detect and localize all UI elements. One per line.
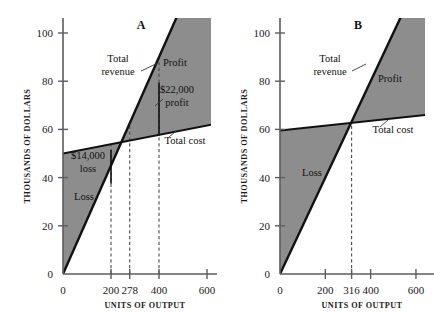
y-tick-label-100: 100 (254, 27, 271, 39)
total-revenue-leader (352, 64, 366, 71)
x-tick-label-200: 200 (317, 284, 334, 296)
breakeven-figure: 0204060801000200278400600UNITS OF OUTPUT… (0, 0, 434, 312)
breakeven-charts-svg: 0204060801000200278400600UNITS OF OUTPUT… (0, 0, 434, 312)
y-axis-title: THOUSANDS OF DOLLARS (23, 89, 32, 204)
total-revenue-label-line1: Total (319, 53, 341, 64)
total-revenue-label-line2: revenue (313, 66, 347, 77)
y-tick-label-60: 60 (259, 123, 271, 135)
x-tick-label-400: 400 (362, 284, 379, 296)
y-tick-label-0: 0 (265, 268, 271, 280)
y-tick-label-20: 20 (42, 220, 54, 232)
y-tick-label-20: 20 (259, 220, 271, 232)
y-tick-label-0: 0 (48, 268, 54, 280)
panel-letter: A (137, 18, 146, 32)
x-axis-title: UNITS OF OUTPUT (321, 301, 402, 310)
y-tick-label-80: 80 (42, 75, 54, 87)
x-axis-title: UNITS OF OUTPUT (104, 301, 185, 310)
x-tick-label-316: 316 (343, 284, 360, 296)
x-tick-label-0: 0 (60, 284, 66, 296)
y-tick-label-60: 60 (42, 123, 54, 135)
profit-region (352, 0, 425, 123)
y-tick-label-80: 80 (259, 75, 271, 87)
y-tick-label-100: 100 (37, 27, 54, 39)
total-cost-label: Total cost (165, 135, 206, 146)
x-tick-label-400: 400 (151, 284, 168, 296)
chart-panel-b: 0204060801000200316400600UNITS OF OUTPUT… (240, 0, 434, 310)
y-tick-label-40: 40 (259, 172, 271, 184)
chart-panel-a: 0204060801000200278400600UNITS OF OUTPUT… (23, 0, 217, 310)
x-tick-label-600: 600 (408, 284, 425, 296)
total-revenue-label-line2: revenue (101, 66, 135, 77)
loss-amount-line2: loss (80, 163, 96, 174)
profit-amount-line1: $22,000 (160, 84, 194, 95)
x-tick-label-200: 200 (103, 284, 120, 296)
total-revenue-label-line1: Total (107, 53, 129, 64)
profit-amount-line2: profit (165, 97, 188, 108)
x-tick-label-0: 0 (277, 284, 283, 296)
loss-amount-line1: $14,000 (71, 150, 105, 161)
loss-label: Loss (302, 167, 322, 178)
total-cost-label: Total cost (373, 124, 414, 135)
panel-letter: B (354, 18, 362, 32)
profit-label: Profit (163, 57, 187, 68)
x-tick-label-600: 600 (199, 284, 216, 296)
profit-label: Profit (378, 73, 402, 84)
y-axis-title: THOUSANDS OF DOLLARS (240, 89, 249, 204)
x-tick-label-278: 278 (121, 284, 138, 296)
y-tick-label-40: 40 (42, 172, 54, 184)
loss-label: Loss (74, 191, 94, 202)
